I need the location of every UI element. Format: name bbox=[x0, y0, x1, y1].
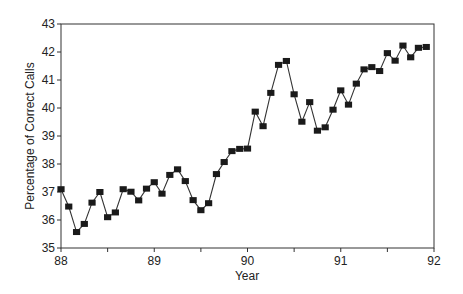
data-point-marker bbox=[314, 128, 321, 134]
y-tick-label: 39 bbox=[42, 129, 56, 143]
x-tick-label: 92 bbox=[427, 254, 441, 268]
data-point-marker bbox=[283, 58, 290, 64]
data-point-marker bbox=[244, 146, 251, 152]
y-axis: 353637383940414243 bbox=[42, 17, 61, 255]
data-point-marker bbox=[275, 62, 282, 68]
y-tick-label: 37 bbox=[42, 185, 56, 199]
data-point-marker bbox=[236, 146, 243, 152]
data-point-marker bbox=[298, 119, 305, 125]
data-point-marker bbox=[353, 81, 360, 87]
data-point-marker bbox=[228, 148, 235, 154]
data-point-marker bbox=[174, 166, 181, 172]
y-tick-label: 36 bbox=[42, 213, 56, 227]
data-point-marker bbox=[259, 123, 266, 129]
data-point-marker bbox=[415, 45, 422, 51]
data-point-marker bbox=[322, 124, 329, 130]
x-tick-label: 89 bbox=[148, 254, 162, 268]
y-tick-label: 43 bbox=[42, 17, 56, 31]
data-point-marker bbox=[135, 197, 142, 203]
y-tick-label: 41 bbox=[42, 73, 56, 87]
data-point-marker bbox=[112, 209, 119, 215]
y-tick-label: 35 bbox=[42, 241, 56, 255]
data-point-marker bbox=[384, 50, 391, 56]
data-point-marker bbox=[423, 44, 430, 50]
data-point-marker bbox=[158, 191, 165, 197]
data-point-marker bbox=[329, 107, 336, 113]
data-point-marker bbox=[337, 87, 344, 93]
data-point-marker bbox=[182, 178, 189, 184]
y-tick-label: 38 bbox=[42, 157, 56, 171]
data-point-marker bbox=[345, 102, 352, 108]
line-chart: 353637383940414243 8889909192 Year Perce… bbox=[0, 0, 463, 294]
data-point-marker bbox=[407, 54, 414, 60]
data-point-marker bbox=[197, 207, 204, 213]
x-axis: 8889909192 bbox=[54, 248, 441, 268]
series-line bbox=[61, 46, 426, 232]
data-point-marker bbox=[291, 91, 298, 97]
data-point-marker bbox=[376, 68, 383, 74]
data-point-marker bbox=[399, 43, 406, 49]
data-point-marker bbox=[205, 200, 212, 206]
x-tick-label: 88 bbox=[54, 254, 68, 268]
data-point-marker bbox=[65, 204, 72, 210]
data-point-marker bbox=[267, 90, 274, 96]
data-point-marker bbox=[360, 66, 367, 72]
data-point-marker bbox=[57, 186, 64, 192]
data-point-marker bbox=[368, 64, 375, 70]
data-point-marker bbox=[120, 186, 127, 192]
data-point-marker bbox=[221, 159, 228, 165]
x-tick-label: 90 bbox=[241, 254, 255, 268]
x-tick-label: 91 bbox=[334, 254, 348, 268]
data-point-marker bbox=[151, 179, 158, 185]
x-axis-title: Year bbox=[235, 269, 259, 283]
data-markers bbox=[57, 43, 429, 235]
y-tick-label: 40 bbox=[42, 101, 56, 115]
data-line bbox=[61, 46, 426, 232]
data-point-marker bbox=[73, 229, 80, 235]
data-point-marker bbox=[143, 186, 150, 192]
data-point-marker bbox=[88, 200, 95, 206]
data-point-marker bbox=[81, 221, 88, 227]
data-point-marker bbox=[127, 189, 134, 195]
data-point-marker bbox=[104, 214, 111, 220]
data-point-marker bbox=[190, 197, 197, 203]
data-point-marker bbox=[392, 58, 399, 64]
data-point-marker bbox=[306, 99, 313, 105]
y-tick-label: 42 bbox=[42, 45, 56, 59]
data-point-marker bbox=[213, 171, 220, 177]
y-axis-title: Percentage of Correct Calls bbox=[23, 62, 37, 209]
data-point-marker bbox=[96, 189, 103, 195]
data-point-marker bbox=[166, 172, 173, 178]
data-point-marker bbox=[252, 109, 259, 115]
